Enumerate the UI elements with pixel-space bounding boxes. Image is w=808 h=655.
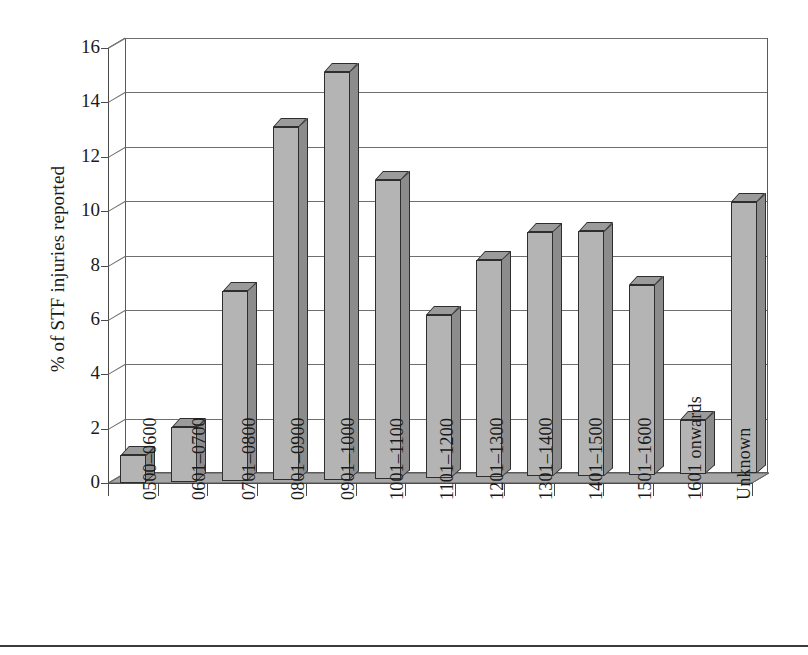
y-tick-label: 8 — [60, 255, 100, 274]
gridline — [126, 38, 767, 39]
y-tick-depth-line — [108, 92, 126, 103]
y-tick-label: 16 — [60, 37, 100, 56]
page-separator-rule — [0, 645, 808, 647]
y-tick-label: 2 — [60, 418, 100, 437]
x-axis-label: 1101–1200 — [437, 418, 458, 500]
gridline — [126, 147, 767, 148]
y-tick-label: 6 — [60, 309, 100, 328]
x-axis-label: 0701–0800 — [239, 417, 260, 500]
gridline — [126, 256, 767, 257]
y-tick-label: 0 — [60, 472, 100, 491]
x-axis-label: 1401–1500 — [586, 417, 607, 500]
bar-side-face — [655, 276, 664, 474]
y-tick-depth-line — [108, 310, 126, 321]
x-axis-label: 1301–1400 — [536, 417, 557, 500]
gridline — [126, 201, 767, 202]
gridline — [126, 92, 767, 93]
bar-side-face — [757, 193, 766, 473]
x-tick-mark — [108, 483, 109, 496]
x-axis-label: 1201–1300 — [487, 417, 508, 500]
x-axis-label: 1001–1100 — [387, 418, 408, 500]
y-tick-depth-line — [108, 201, 126, 212]
figure-bar-chart: % of STF injuries reported 0246810121416… — [0, 0, 808, 655]
x-axis-label: 0801–0900 — [288, 417, 309, 500]
plot-area: 0246810121416 0500–06000601–07000701–080… — [0, 0, 808, 655]
y-tick-depth-line — [108, 364, 126, 375]
y-tick-label: 12 — [60, 146, 100, 165]
y-tick-label: 4 — [60, 363, 100, 382]
y-tick-depth-line — [108, 256, 126, 267]
y-tick-label: 10 — [60, 200, 100, 219]
y-tick-depth-line — [108, 38, 126, 49]
y-tick-depth-line — [108, 147, 126, 158]
x-axis-label: 1601 onwards — [685, 396, 706, 500]
x-axis-label: 1501–1600 — [635, 417, 656, 500]
x-axis-label: 0901–1000 — [338, 417, 359, 500]
x-axis-label: 0500–0600 — [140, 417, 161, 500]
x-axis-label: Unknown — [734, 428, 755, 500]
bar-side-face — [706, 411, 715, 473]
y-tick-label: 14 — [60, 91, 100, 110]
x-axis-label: 0601–0700 — [189, 417, 210, 500]
y-tick-depth-line — [108, 419, 126, 430]
